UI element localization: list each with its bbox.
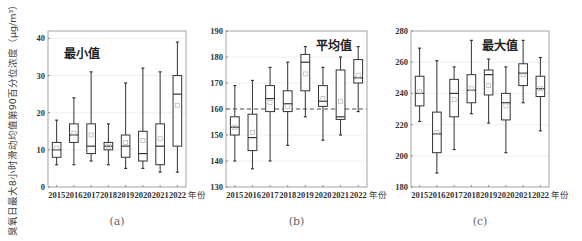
x-tick-label: 2020 (314, 190, 331, 200)
box-2019 (121, 83, 130, 168)
x-tick-label: 2016 (428, 190, 445, 200)
panel-a-minimum: 0102030402015201620172018201920202021202… (37, 31, 207, 228)
x-tick-label: 2022 (350, 190, 367, 200)
iqr-box (484, 70, 493, 95)
iqr-box (139, 131, 148, 161)
x-tick-label: 2017 (446, 190, 464, 200)
panel-label: (b) (289, 215, 305, 228)
x-tick-label: 2016 (244, 190, 261, 200)
x-tick-label: 2021 (515, 190, 532, 200)
y-tick-label: 140 (210, 156, 223, 166)
iqr-box (519, 64, 528, 86)
box-2018 (283, 62, 292, 145)
x-tick-label: 2016 (65, 190, 82, 200)
box-2018 (104, 124, 113, 165)
box-2017 (266, 67, 275, 161)
box-2018 (467, 40, 476, 113)
box-2017 (87, 72, 96, 161)
iqr-box (319, 86, 328, 107)
box-2021 (156, 72, 165, 172)
iqr-box (156, 124, 165, 165)
y-tick-label: 180 (210, 52, 223, 62)
iqr-box (502, 93, 511, 120)
panel-c-maximum: 1802002202402602802015201620172018201920… (395, 26, 569, 228)
iqr-box (450, 79, 459, 116)
box-2015 (415, 48, 424, 121)
x-tick-label: 2017 (262, 190, 280, 200)
y-tick-label: 200 (395, 151, 408, 161)
y-tick-label: 280 (395, 26, 408, 36)
x-tick-label: 2017 (83, 190, 101, 200)
panel-title: 平均值 (316, 38, 352, 53)
x-tick-label: 2022 (532, 190, 549, 200)
box-2022 (536, 58, 545, 131)
x-tick-label: 2015 (226, 190, 243, 200)
y-tick-label: 150 (210, 130, 223, 140)
y-tick-label: 190 (210, 26, 223, 36)
y-tick-label: 220 (395, 120, 408, 130)
box-2019 (484, 59, 493, 123)
box-2015 (52, 120, 61, 165)
x-tick-label: 2019 (297, 190, 314, 200)
y-tick-label: 240 (395, 88, 408, 98)
y-tick-label: 170 (210, 78, 223, 88)
box-2017 (450, 67, 459, 150)
x-axis-unit-label: 年份 (369, 190, 387, 200)
x-tick-label: 2018 (100, 190, 117, 200)
iqr-box (301, 54, 310, 90)
x-tick-label: 2018 (279, 190, 296, 200)
box-2015 (230, 86, 239, 161)
box-2020 (319, 67, 328, 140)
y-tick-label: 180 (395, 182, 408, 192)
iqr-box (415, 76, 424, 106)
plot-frame (411, 31, 549, 187)
box-2016 (70, 98, 79, 165)
y-tick-label: 40 (37, 33, 46, 43)
y-tick-label: 30 (37, 71, 46, 81)
iqr-box (467, 75, 476, 103)
iqr-box (173, 76, 182, 147)
iqr-box (230, 117, 239, 135)
panel-label: (c) (473, 215, 488, 228)
y-tick-label: 260 (395, 57, 408, 67)
x-axis-unit-label: 年份 (188, 190, 206, 200)
y-tick-label: 130 (210, 182, 223, 192)
x-tick-label: 2019 (480, 190, 497, 200)
y-tick-label: 10 (37, 145, 46, 155)
x-tick-label: 2019 (117, 190, 134, 200)
iqr-box (336, 70, 345, 119)
panel-label: (a) (109, 215, 124, 228)
x-tick-label: 2021 (332, 190, 349, 200)
x-tick-label: 2020 (497, 190, 514, 200)
box-2020 (139, 68, 148, 168)
x-tick-label: 2015 (411, 190, 428, 200)
y-tick-label: 20 (37, 108, 46, 118)
box-2021 (336, 57, 345, 135)
panel-title: 最小值 (64, 46, 100, 61)
iqr-box (433, 112, 442, 153)
x-tick-label: 2022 (169, 190, 186, 200)
x-tick-label: 2015 (48, 190, 65, 200)
box-2016 (248, 80, 257, 168)
y-tick-label: 160 (210, 104, 223, 114)
x-tick-label: 2018 (463, 190, 480, 200)
iqr-box (87, 124, 96, 154)
iqr-box (248, 114, 257, 150)
x-axis-unit-label: 年份 (551, 190, 569, 200)
panel-title: 最大值 (482, 38, 518, 53)
box-2022 (354, 47, 363, 112)
iqr-box (354, 60, 363, 83)
figure-canvas: 0102030402015201620172018201920202021202… (0, 0, 582, 241)
y-tick-label: 0 (41, 182, 45, 192)
box-2022 (173, 42, 182, 172)
box-2020 (502, 67, 511, 153)
x-tick-label: 2020 (134, 190, 151, 200)
box-2019 (301, 47, 310, 117)
x-tick-label: 2021 (152, 190, 169, 200)
iqr-box (70, 124, 79, 143)
panel-b-mean: 1301401501601701801902015201620172018201… (210, 26, 387, 228)
